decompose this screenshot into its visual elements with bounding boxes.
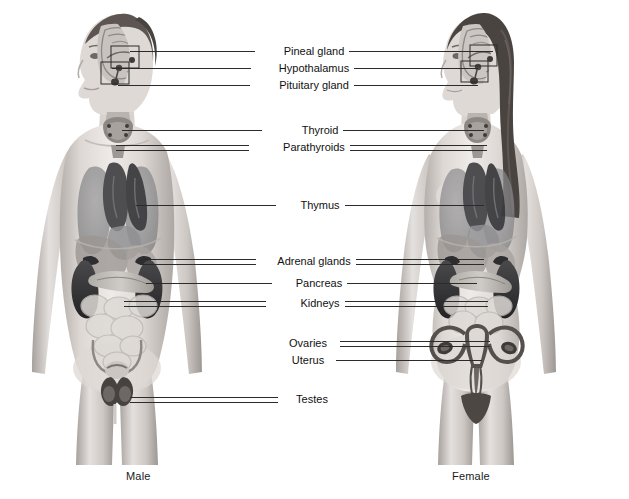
leader-adrenal-right-b bbox=[354, 264, 484, 265]
label-thyroid-text: Thyroid bbox=[297, 125, 344, 136]
label-ovaries: Ovaries bbox=[268, 336, 348, 350]
leader-pituitary-left bbox=[118, 85, 250, 86]
leader-adrenal-left-b bbox=[140, 264, 256, 265]
leader-parathyroids-left-b bbox=[116, 150, 249, 151]
label-hypothalamus-text: Hypothalamus bbox=[274, 63, 354, 74]
leader-thyroid-left bbox=[122, 130, 262, 131]
label-parathyroids-text: Parathyroids bbox=[278, 142, 350, 153]
leader-parathyroids-left-a bbox=[116, 145, 249, 146]
label-pancreas-text: Pancreas bbox=[291, 278, 347, 289]
leader-hypothalamus-left bbox=[112, 68, 251, 69]
leader-parathyroids-right-b bbox=[347, 150, 487, 151]
leader-pancreas-left bbox=[146, 283, 272, 284]
label-testes: Testes bbox=[272, 392, 352, 406]
endocrine-diagram: Pineal gland Hypothalamus Pituitary glan… bbox=[0, 0, 629, 499]
label-adrenal-glands-text: Adrenal glands bbox=[272, 256, 355, 267]
leader-pineal-right bbox=[348, 51, 493, 52]
label-parathyroids: Parathyroids bbox=[229, 140, 399, 154]
label-layer: Pineal gland Hypothalamus Pituitary glan… bbox=[0, 0, 629, 465]
leader-testes-left-b bbox=[130, 402, 278, 403]
caption-male: Male bbox=[126, 470, 151, 482]
label-thymus-text: Thymus bbox=[295, 200, 344, 211]
leader-ovaries-right-a bbox=[340, 341, 490, 342]
leader-adrenal-left-a bbox=[140, 259, 256, 260]
leader-pituitary-right bbox=[350, 85, 478, 86]
leader-testes-left-a bbox=[130, 397, 278, 398]
label-kidneys: Kidneys bbox=[238, 296, 402, 310]
leader-kidneys-right-a bbox=[340, 301, 488, 302]
label-testes-text: Testes bbox=[291, 394, 333, 405]
leader-ovaries-right-b bbox=[340, 346, 490, 347]
label-pituitary-gland-text: Pituitary gland bbox=[274, 80, 354, 91]
label-uterus-text: Uterus bbox=[287, 355, 329, 366]
label-adrenal-glands: Adrenal glands bbox=[229, 254, 399, 268]
leader-kidneys-right-b bbox=[340, 306, 488, 307]
leader-thyroid-right bbox=[338, 130, 484, 131]
label-pineal-gland-text: Pineal gland bbox=[279, 46, 350, 57]
leader-pineal-left bbox=[130, 51, 255, 52]
leader-hypothalamus-right bbox=[344, 68, 478, 69]
leader-thymus-left bbox=[136, 205, 276, 206]
leader-kidneys-left-b bbox=[124, 306, 266, 307]
caption-female: Female bbox=[452, 470, 490, 482]
leader-uterus-right bbox=[336, 360, 482, 361]
leader-kidneys-left-a bbox=[124, 301, 266, 302]
label-kidneys-text: Kidneys bbox=[295, 298, 344, 309]
leader-parathyroids-right-a bbox=[347, 145, 487, 146]
leader-adrenal-right-a bbox=[354, 259, 484, 260]
leader-thymus-right bbox=[334, 205, 484, 206]
label-ovaries-text: Ovaries bbox=[284, 338, 332, 349]
leader-pancreas-right bbox=[345, 283, 477, 284]
